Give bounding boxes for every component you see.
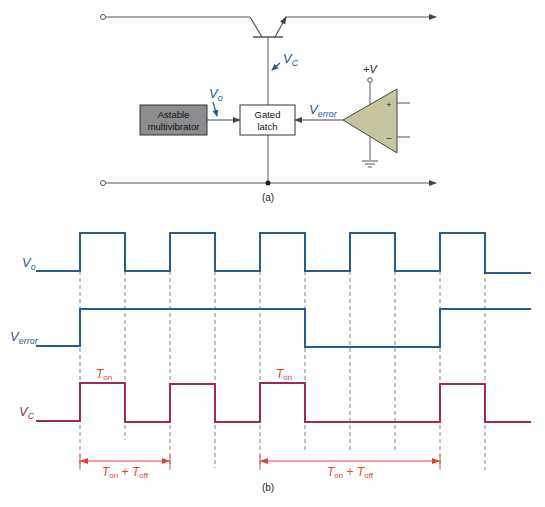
astable-label-line1: Astable: [158, 109, 190, 120]
ton-label-2: Ton: [276, 367, 292, 382]
supply-label: +V: [363, 63, 378, 75]
junction-dot: [266, 181, 271, 186]
ground-icon: [362, 161, 378, 167]
regulator-diagram: VC Astable multivibrator Vo Gated latch …: [0, 0, 545, 507]
vc-timing-label: VC: [19, 404, 35, 421]
vo-circuit-label: Vo: [209, 86, 223, 103]
timing-diagram-b: Vo Verror VC Ton Ton Ton + Toff Ton + To…: [10, 233, 531, 493]
period-2-label: Ton + Toff: [327, 465, 374, 480]
verror-timing-label: Verror: [10, 329, 39, 346]
input-terminal-bottom: [101, 181, 106, 186]
input-terminal-top: [101, 15, 106, 20]
supply-terminal: [368, 78, 373, 83]
opamp-icon: + –: [343, 82, 410, 160]
verror-waveform: [36, 309, 531, 347]
opamp-minus-label: –: [386, 133, 391, 143]
vc-label: VC: [283, 51, 299, 68]
latch-label-line1: Gated: [255, 109, 281, 120]
caption-b: (b): [262, 482, 274, 493]
vo-arrow-icon: [213, 102, 217, 116]
period-1-label: Ton + Toff: [102, 465, 149, 480]
vc-arrow-icon: [272, 63, 280, 70]
vc-waveform: [36, 383, 531, 422]
verror-circuit-label: Verror: [309, 102, 338, 119]
astable-label-line2: multivibrator: [148, 121, 200, 132]
circuit-a: VC Astable multivibrator Vo Gated latch …: [0, 0, 436, 203]
latch-label-line2: latch: [257, 121, 277, 132]
transistor-icon: [250, 17, 286, 37]
opamp-plus-label: +: [386, 100, 391, 110]
caption-a: (a): [262, 192, 274, 203]
ton-label-1: Ton: [96, 367, 112, 382]
vo-timing-label: Vo: [22, 255, 36, 272]
vo-waveform: [36, 233, 531, 273]
